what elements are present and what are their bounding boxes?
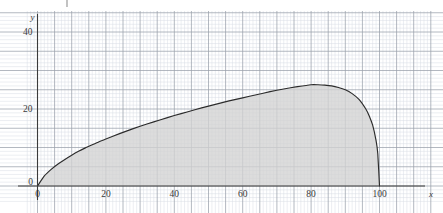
- x-tick-label: 20: [101, 189, 111, 199]
- x-tick-label: 60: [238, 189, 248, 199]
- x-tick-label: 40: [170, 189, 180, 199]
- x-tick-label: 100: [372, 189, 387, 199]
- x-axis-label: x: [428, 189, 433, 199]
- area-chart: 020406080100 02040 x y: [0, 0, 443, 213]
- y-tick-label: 0: [28, 177, 33, 187]
- y-axis-label: y: [30, 12, 35, 22]
- chart-container: 020406080100 02040 x y: [0, 0, 443, 213]
- y-tick-label: 20: [23, 104, 33, 114]
- x-tick-label: 0: [35, 189, 40, 199]
- y-tick-label: 40: [23, 27, 33, 37]
- x-tick-label: 80: [306, 189, 316, 199]
